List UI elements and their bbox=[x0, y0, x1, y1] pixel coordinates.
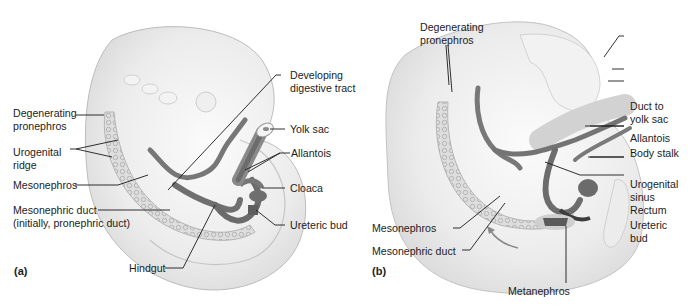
label-allantois-a: Allantois bbox=[291, 147, 331, 160]
embryo-kidney-figure: Developing digestive tract Degenerating … bbox=[0, 0, 692, 308]
label-line: pronephros bbox=[420, 34, 484, 47]
label-mesonephric-duct-a: Mesonephric duct (initially, pronephric … bbox=[13, 204, 130, 229]
label-allantois-b: Allantois bbox=[630, 132, 670, 145]
label-degenerating-pronephros-b: Degenerating pronephros bbox=[420, 21, 484, 46]
label-line: pronephros bbox=[13, 120, 77, 133]
panel-b-tag: (b) bbox=[372, 265, 386, 277]
label-developing-digestive-tract: Developing digestive tract bbox=[290, 69, 355, 94]
label-body-stalk: Body stalk bbox=[630, 147, 679, 160]
label-line: Duct to bbox=[630, 100, 668, 113]
label-mesonephros-b: Mesonephros bbox=[372, 222, 436, 235]
label-line: Developing bbox=[290, 69, 355, 82]
label-line: yolk sac bbox=[630, 113, 668, 126]
label-line: (initially, pronephric duct) bbox=[13, 217, 130, 230]
label-hindgut: Hindgut bbox=[129, 262, 166, 275]
label-line: sinus bbox=[630, 191, 678, 204]
label-line: digestive tract bbox=[290, 82, 355, 95]
label-urogenital-ridge: Urogenital ridge bbox=[13, 146, 61, 171]
panel-a-tag: (a) bbox=[14, 265, 27, 277]
label-rectum: Rectum bbox=[630, 204, 667, 217]
label-line: Urogenital bbox=[13, 146, 61, 159]
label-ureteric-bud-a: Ureteric bud bbox=[290, 219, 348, 232]
label-ureteric-bud-b: Ureteric bud bbox=[630, 219, 667, 244]
label-line: ridge bbox=[13, 159, 61, 172]
label-metanephros: Metanephros bbox=[508, 285, 570, 298]
label-yolk-sac-a: Yolk sac bbox=[290, 123, 329, 136]
label-line: Ureteric bbox=[630, 219, 667, 232]
illustration-canvas bbox=[0, 0, 692, 308]
panel-a-embryo bbox=[85, 27, 305, 290]
label-cloaca: Cloaca bbox=[290, 182, 323, 195]
label-line: bud bbox=[630, 232, 667, 245]
label-line: Urogenital bbox=[630, 178, 678, 191]
label-degenerating-pronephros-a: Degenerating pronephros bbox=[13, 107, 77, 132]
label-mesonephros-a: Mesonephros bbox=[13, 179, 77, 192]
label-line: Degenerating bbox=[420, 21, 484, 34]
label-urogenital-sinus: Urogenital sinus bbox=[630, 178, 678, 203]
label-line: Mesonephric duct bbox=[13, 204, 130, 217]
label-duct-to-yolk-sac: Duct to yolk sac bbox=[630, 100, 668, 125]
label-mesonephric-duct-b: Mesonephric duct bbox=[372, 245, 456, 258]
label-line: Degenerating bbox=[13, 107, 77, 120]
